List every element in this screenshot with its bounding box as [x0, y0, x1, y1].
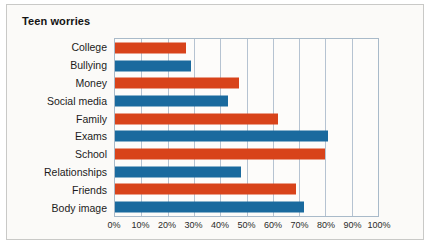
x-axis-tick-label: 100% — [367, 220, 390, 230]
y-axis-label: Body image — [52, 202, 110, 214]
x-axis-tick-label: 20% — [158, 220, 176, 230]
bar-series — [115, 39, 378, 216]
x-axis-tick-label: 0% — [107, 220, 120, 230]
bar[interactable] — [115, 78, 239, 89]
chart-title: Teen worries — [22, 15, 90, 27]
y-axis-label: College — [71, 41, 110, 53]
y-axis-label: Family — [76, 113, 110, 125]
y-axis-label-row: Money — [7, 74, 110, 92]
bar[interactable] — [115, 148, 325, 159]
y-axis-label: Exams — [75, 130, 110, 142]
bar[interactable] — [115, 95, 228, 106]
x-axis-tick-label: 90% — [343, 220, 361, 230]
bar-row — [115, 145, 378, 163]
y-axis-label: School — [75, 148, 110, 160]
y-axis-label-row: Relationships — [7, 163, 110, 181]
bar-row — [115, 181, 378, 199]
y-axis-label: Friends — [72, 184, 110, 196]
bar[interactable] — [115, 42, 186, 53]
x-axis-tick-label: 10% — [131, 220, 149, 230]
x-axis-tick-label: 80% — [317, 220, 335, 230]
bar-row — [115, 110, 378, 128]
y-axis-label: Social media — [47, 95, 110, 107]
y-axis-label-row: Friends — [7, 181, 110, 199]
y-axis-label: Relationships — [44, 166, 110, 178]
bar[interactable] — [115, 184, 296, 195]
y-axis-label-row: Family — [7, 110, 110, 128]
x-axis-tick-label: 40% — [211, 220, 229, 230]
bar[interactable] — [115, 113, 278, 124]
bar-row — [115, 92, 378, 110]
y-axis-label: Money — [75, 77, 110, 89]
y-axis-label-row: Body image — [7, 199, 110, 217]
bar-row — [115, 57, 378, 75]
y-axis-label-row: College — [7, 38, 110, 56]
bar-row — [115, 163, 378, 181]
bar[interactable] — [115, 166, 241, 177]
x-axis-tick-label: 50% — [237, 220, 255, 230]
x-axis-tick-label: 70% — [290, 220, 308, 230]
y-axis-category-labels: CollegeBullyingMoneySocial mediaFamilyEx… — [7, 38, 110, 217]
bar[interactable] — [115, 202, 304, 213]
plot-area — [114, 38, 379, 217]
y-axis-label-row: School — [7, 145, 110, 163]
chart-figure: Teen worries CollegeBullyingMoneySocial … — [6, 4, 424, 240]
x-axis-tick-labels: 0%10%20%30%40%50%60%70%80%90%100% — [114, 220, 379, 236]
y-axis-label: Bullying — [70, 59, 110, 71]
bar[interactable] — [115, 131, 328, 142]
bar-row — [115, 198, 378, 216]
bar-row — [115, 127, 378, 145]
x-axis-tick-label: 30% — [184, 220, 202, 230]
y-axis-label-row: Exams — [7, 127, 110, 145]
y-axis-label-row: Social media — [7, 92, 110, 110]
bar[interactable] — [115, 60, 191, 71]
y-axis-label-row: Bullying — [7, 56, 110, 74]
x-axis-tick-label: 60% — [264, 220, 282, 230]
bar-row — [115, 74, 378, 92]
bar-row — [115, 39, 378, 57]
